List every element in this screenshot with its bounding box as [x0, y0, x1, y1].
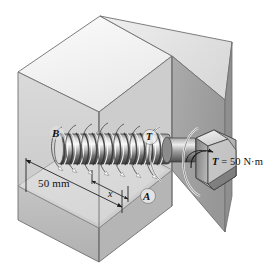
bolt-collar: [162, 137, 172, 163]
label-point-b: B: [52, 128, 59, 139]
label-applied-torque-value: = 50 N·m: [219, 156, 263, 167]
label-applied-torque: T = 50 N·m: [212, 157, 263, 168]
figure-container: B A T 50 mm x T = 50 N·m: [0, 0, 277, 280]
mechanics-diagram-svg: [0, 0, 277, 280]
label-torque-section: T: [146, 132, 152, 142]
label-point-a: A: [143, 191, 150, 202]
label-dimension-50mm: 50 mm: [38, 178, 70, 189]
label-dimension-x: x: [108, 189, 112, 199]
